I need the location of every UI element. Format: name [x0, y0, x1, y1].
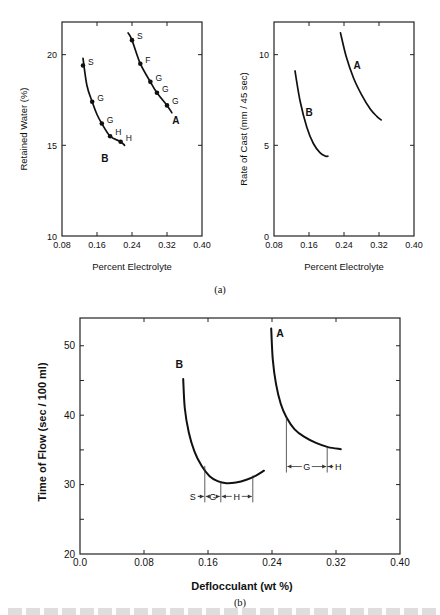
x-tick-label: 0.32: [158, 240, 176, 250]
x-axis-label: Percent Electrolyte: [304, 261, 384, 272]
x-tick-label: 0.16: [198, 557, 218, 568]
plot-content: 0.080.160.240.320.40101520SGGHHBSFGGGA: [47, 22, 211, 250]
x-axis-label: Deflocculant (wt %): [191, 580, 293, 592]
x-tick-label: 0.24: [123, 240, 141, 250]
point-label: S: [88, 57, 94, 67]
series-curve: [341, 33, 382, 120]
series-label: B: [101, 153, 108, 164]
point-label: S: [137, 31, 143, 41]
arrow-right-icon: [200, 494, 204, 498]
x-tick-label: 0.08: [265, 240, 283, 250]
series-label: A: [276, 327, 284, 339]
x-tick-label: 0.16: [88, 240, 106, 250]
arrow-left-icon: [222, 494, 226, 498]
series-label: B: [305, 107, 312, 118]
plot-frame: [62, 22, 202, 236]
x-tick-label: 0.16: [300, 240, 318, 250]
data-point: [130, 38, 135, 43]
range-label: G: [303, 462, 310, 472]
series-a: AGH: [271, 327, 341, 472]
figure: 0.080.160.240.320.40101520SGGHHBSFGGGA P…: [0, 0, 440, 615]
plot-frame: [274, 22, 414, 236]
point-label: G: [162, 84, 169, 94]
plot-content: 0.00.080.160.240.320.4020304050BSGHAGH: [64, 318, 410, 568]
range-label: H: [234, 492, 241, 502]
arrow-right-icon: [216, 494, 220, 498]
x-tick-label: 0.32: [326, 557, 346, 568]
chart-time-of-flow: 0.00.080.160.240.320.4020304050BSGHAGH D…: [36, 318, 410, 592]
series-label: A: [354, 60, 361, 71]
point-label: G: [97, 93, 104, 103]
x-tick-label: 0.08: [134, 557, 154, 568]
series-curve: [183, 379, 264, 483]
arrow-right-icon: [322, 465, 326, 469]
data-point: [90, 99, 95, 104]
plot-frame: [80, 318, 400, 554]
arrow-left-icon: [206, 494, 210, 498]
data-point: [100, 121, 105, 126]
series-a: SFGGGA: [128, 31, 179, 125]
series-b: SGGHHB: [81, 57, 132, 164]
series-label: A: [172, 115, 179, 126]
arrow-right-icon: [248, 494, 252, 498]
range-label: H: [335, 462, 342, 472]
x-tick-label: 0.40: [405, 240, 423, 250]
y-tick-label: 40: [64, 410, 76, 421]
y-tick-label: 10: [259, 50, 269, 60]
y-tick-label: 0: [264, 232, 269, 242]
x-axis-label: Percent Electrolyte: [92, 261, 172, 272]
series-b: BSGH: [175, 358, 264, 502]
data-point: [165, 103, 170, 108]
x-tick-label: 0.24: [335, 240, 353, 250]
y-axis-label: Time of Flow (sec / 100 ml): [36, 362, 48, 502]
data-point: [118, 139, 123, 144]
y-tick-label: 20: [64, 549, 76, 560]
point-label: H: [115, 127, 121, 137]
point-label: G: [155, 73, 162, 83]
y-axis-label: Retained Water (%): [18, 87, 29, 170]
y-tick-label: 50: [64, 340, 76, 351]
point-label: G: [172, 96, 179, 106]
y-tick-label: 30: [64, 479, 76, 490]
series-label: B: [175, 358, 183, 370]
data-point: [155, 90, 160, 95]
chart-rate-of-cast: 0.080.160.240.320.400510BA Percent Elect…: [238, 22, 423, 272]
x-tick-label: 0.08: [53, 240, 71, 250]
arrow-left-icon: [287, 465, 291, 469]
series-curve: [128, 33, 172, 113]
panel-a-label: (a): [214, 284, 226, 296]
x-tick-label: 0.0: [73, 557, 87, 568]
chart-retained-water: 0.080.160.240.320.40101520SGGHHBSFGGGA P…: [18, 22, 211, 272]
point-label: F: [145, 55, 150, 65]
y-tick-label: 5: [264, 141, 269, 151]
series-b: B: [295, 71, 328, 157]
series-a: A: [341, 33, 382, 120]
x-tick-label: 0.40: [193, 240, 211, 250]
data-point: [81, 63, 86, 68]
point-label: G: [107, 115, 114, 125]
range-label: G: [209, 492, 216, 502]
plot-content: 0.080.160.240.320.400510BA: [259, 22, 423, 250]
y-tick-label: 20: [47, 50, 57, 60]
data-point: [108, 134, 113, 139]
y-tick-label: 15: [47, 141, 57, 151]
figure-caption-cropped: [8, 608, 438, 615]
series-curve: [271, 328, 341, 449]
data-point: [148, 80, 153, 85]
x-tick-label: 0.32: [370, 240, 388, 250]
x-tick-label: 0.40: [390, 557, 410, 568]
range-label: S: [190, 492, 196, 502]
point-label: H: [126, 133, 132, 143]
data-point: [138, 61, 143, 66]
y-axis-label: Rate of Cast (mm / 45 sec): [238, 72, 249, 186]
x-tick-label: 0.24: [262, 557, 282, 568]
y-tick-label: 10: [47, 232, 57, 242]
